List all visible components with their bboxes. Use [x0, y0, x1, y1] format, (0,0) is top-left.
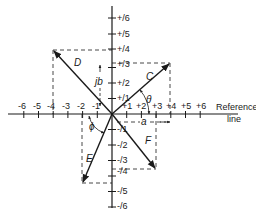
diagram-canvas: -6 -5 -4 -3 -2 -1 +1 +2 +3 +4 +5 +6 Refe… [0, 0, 256, 213]
x-tick-label: +2 [136, 101, 146, 111]
y-tick-label: +/3 [117, 59, 130, 69]
x-tick-label: +3 [152, 101, 162, 111]
x-tick-label: +5 [181, 101, 191, 111]
phasor-e [83, 114, 112, 182]
x-tick-label: -4 [47, 101, 55, 111]
jb-label: jb [93, 76, 103, 87]
phasor-diagram: -6 -5 -4 -3 -2 -1 +1 +2 +3 +4 +5 +6 Refe… [0, 0, 256, 213]
y-tick-label: -/2 [117, 140, 128, 150]
y-tick-label: -/4 [117, 166, 128, 176]
x-tick-label: +4 [166, 101, 176, 111]
phasor-d-label: D [74, 57, 81, 68]
y-tick-label: +/4 [117, 44, 130, 54]
x-tick-label: -6 [18, 101, 26, 111]
x-tick-label: +6 [196, 101, 206, 111]
x-tick-label: -1 [92, 101, 100, 111]
phi-label: ϕ [89, 121, 95, 132]
theta-label: θ [146, 94, 152, 105]
y-tick-label: -/5 [117, 186, 128, 196]
y-tick-label: +/2 [117, 78, 130, 88]
reference-line-label: Reference [216, 102, 256, 112]
y-tick-label: +/5 [117, 29, 130, 39]
y-tick-label: +/1 [117, 93, 130, 103]
reference-line-label-2: line [227, 114, 241, 124]
phasor-e-label: E [86, 153, 93, 164]
y-tick-label: -/3 [117, 155, 128, 165]
phasor-c-label: C [146, 71, 154, 82]
phasor-f-label: F [145, 135, 152, 146]
a-label: a [141, 116, 147, 127]
y-tick-label: +/6 [117, 13, 130, 23]
y-tick-label: -/6 [117, 201, 128, 211]
x-tick-label: -3 [62, 101, 70, 111]
x-tick-label: -5 [33, 101, 41, 111]
x-tick-label: -2 [77, 101, 85, 111]
